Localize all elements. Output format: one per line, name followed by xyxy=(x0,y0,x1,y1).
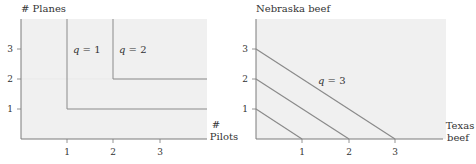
left-y-tick-label: 3 xyxy=(7,44,13,54)
left-x-axis-label-line1: # xyxy=(212,119,220,130)
annotation-q3: q = 3 xyxy=(318,75,346,86)
figure: 1 2 3 1 2 3 # Planes # Pilots q = 1 q = … xyxy=(0,0,476,164)
right-x-axis-label-line1: Texas xyxy=(446,120,475,131)
right-y-tick-label: 3 xyxy=(242,44,248,54)
right-x-tick-label: 3 xyxy=(392,147,398,157)
annotation-q2: q = 2 xyxy=(119,44,147,55)
left-x-axis-label-line2: Pilots xyxy=(210,131,238,142)
right-y-tick-label: 1 xyxy=(242,104,248,114)
right-chart: 1 2 3 1 2 3 Nebraska beef Texas beef q =… xyxy=(242,3,474,157)
left-y-tick-label: 2 xyxy=(7,74,13,84)
left-x-tick-label: 2 xyxy=(110,147,116,157)
right-plot-area xyxy=(256,19,446,139)
right-x-axis-label-line2: beef xyxy=(447,132,470,143)
right-x-tick-label: 2 xyxy=(346,147,352,157)
annotation-q1: q = 1 xyxy=(73,44,101,55)
right-y-axis-label: Nebraska beef xyxy=(256,3,331,14)
left-y-tick-label: 1 xyxy=(7,104,13,114)
left-chart: 1 2 3 1 2 3 # Planes # Pilots q = 1 q = … xyxy=(7,3,238,157)
right-y-tick-label: 2 xyxy=(242,74,248,84)
right-x-tick-label: 1 xyxy=(299,147,305,157)
left-x-tick-label: 1 xyxy=(64,147,70,157)
left-x-tick-label: 3 xyxy=(157,147,163,157)
left-y-axis-label: # Planes xyxy=(21,3,66,14)
